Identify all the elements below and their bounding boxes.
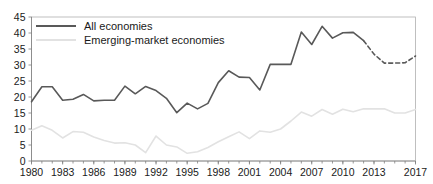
legend-label-1: Emerging-market economies <box>84 34 225 46</box>
x-tick-label: 1986 <box>82 166 106 178</box>
series-line-forecast-0 <box>364 41 416 63</box>
x-tick-label: 2017 <box>404 166 428 178</box>
y-tick-label: 45 <box>14 11 26 23</box>
x-tick-label: 2007 <box>300 166 324 178</box>
y-tick-label: 30 <box>14 59 26 71</box>
y-tick-label: 15 <box>14 107 26 119</box>
line-chart: 454035302520151050 198019831986198919921… <box>0 0 433 184</box>
y-tick-label: 20 <box>14 91 26 103</box>
chart-legend: All economiesEmerging-market economies <box>36 20 225 46</box>
x-tick-label: 2004 <box>269 166 293 178</box>
x-tick-label: 1989 <box>113 166 137 178</box>
y-tick-label: 35 <box>14 43 26 55</box>
x-tick-label: 1998 <box>207 166 231 178</box>
y-tick-label: 10 <box>14 123 26 135</box>
x-axis-ticks <box>32 161 416 165</box>
series-line-1 <box>32 109 416 153</box>
x-tick-label: 2001 <box>238 166 262 178</box>
y-tick-label: 25 <box>14 75 26 87</box>
x-tick-label: 2013 <box>362 166 386 178</box>
y-axis-tick-labels: 454035302520151050 <box>14 11 26 167</box>
x-tick-label: 1995 <box>175 166 199 178</box>
y-tick-label: 40 <box>14 27 26 39</box>
x-tick-label: 1983 <box>51 166 75 178</box>
x-axis-tick-labels: 1980198319861989199219951998200120042007… <box>20 166 428 178</box>
x-tick-label: 2010 <box>331 166 355 178</box>
x-tick-label: 1980 <box>20 166 44 178</box>
y-tick-label: 0 <box>20 155 26 167</box>
y-axis-ticks <box>29 17 32 161</box>
chart-container: 454035302520151050 198019831986198919921… <box>0 0 433 184</box>
x-tick-label: 1992 <box>144 166 168 178</box>
y-tick-label: 5 <box>20 139 26 151</box>
legend-label-0: All economies <box>84 20 153 32</box>
